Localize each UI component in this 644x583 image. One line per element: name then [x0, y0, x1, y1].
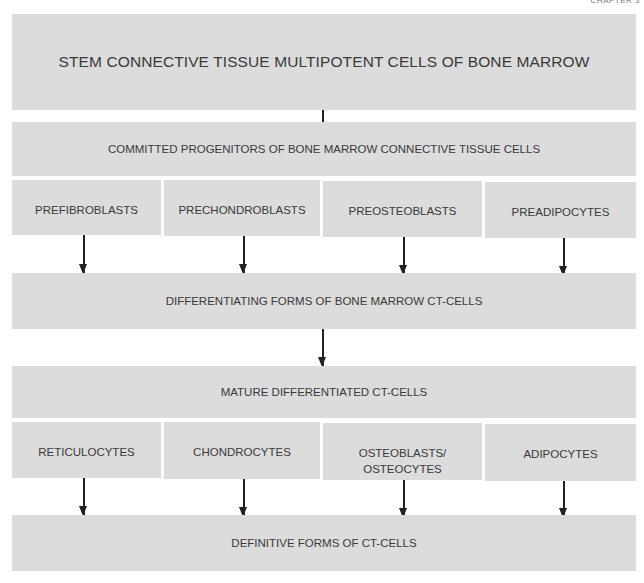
differentiating-forms-box: DIFFERENTIATING FORMS OF BONE MARROW CT-…	[12, 273, 636, 329]
mature-cell-label: OSTEOBLASTS/ OSTEOCYTES	[359, 445, 447, 477]
arrow-down-icon	[243, 479, 245, 516]
progenitor-box-prechondroblasts: PRECHONDROBLASTS	[164, 180, 320, 236]
stem-cells-label: STEM CONNECTIVE TISSUE MULTIPOTENT CELLS…	[59, 53, 590, 71]
definitive-forms-box: DEFINITIVE FORMS OF CT-CELLS	[12, 515, 636, 571]
mature-box-reticulocytes: RETICULOCYTES	[12, 422, 161, 478]
arrow-down-icon	[403, 237, 405, 274]
progenitor-box-prefibroblasts: PREFIBROBLASTS	[12, 180, 161, 235]
arrow-down-icon	[83, 235, 85, 273]
mature-box-adipocytes: ADIPOCYTES	[485, 424, 636, 481]
arrow-down-icon	[322, 329, 324, 366]
mature-cell-label: CHONDROCYTES	[193, 444, 291, 460]
committed-progenitors-box: COMMITTED PROGENITORS OF BONE MARROW CON…	[12, 122, 636, 176]
mature-cells-label: MATURE DIFFERENTIATED CT-CELLS	[221, 386, 428, 398]
definitive-forms-label: DEFINITIVE FORMS OF CT-CELLS	[231, 537, 416, 549]
progenitor-label: PREFIBROBLASTS	[35, 202, 138, 218]
mature-cell-label: RETICULOCYTES	[38, 444, 135, 460]
mature-box-chondrocytes: CHONDROCYTES	[164, 422, 320, 479]
stem-cells-box: STEM CONNECTIVE TISSUE MULTIPOTENT CELLS…	[12, 14, 636, 110]
progenitor-label: PRECHONDROBLASTS	[178, 202, 305, 218]
progenitor-label: PREADIPOCYTES	[512, 204, 610, 220]
arrow-down-icon	[403, 480, 405, 517]
progenitor-box-preosteoblasts: PREOSTEOBLASTS	[323, 181, 482, 237]
arrow-down-icon	[563, 481, 565, 517]
committed-progenitors-label: COMMITTED PROGENITORS OF BONE MARROW CON…	[108, 143, 540, 155]
arrow-down-icon	[83, 478, 85, 515]
progenitor-box-preadipocytes: PREADIPOCYTES	[485, 182, 636, 238]
mature-box-osteoblasts: OSTEOBLASTS/ OSTEOCYTES	[323, 423, 482, 480]
arrow-down-icon	[563, 238, 565, 275]
progenitor-label: PREOSTEOBLASTS	[348, 203, 456, 219]
mature-cells-box: MATURE DIFFERENTIATED CT-CELLS	[12, 366, 636, 418]
chapter-label: CHAPTER 3	[591, 0, 640, 5]
differentiating-forms-label: DIFFERENTIATING FORMS OF BONE MARROW CT-…	[166, 295, 483, 307]
arrow-down-icon	[243, 236, 245, 273]
mature-cell-label: ADIPOCYTES	[523, 446, 597, 462]
